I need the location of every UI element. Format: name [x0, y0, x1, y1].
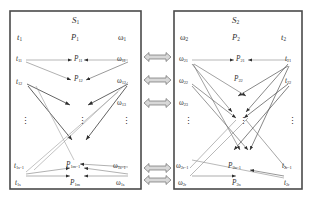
node-omega21: ω21 [179, 56, 188, 63]
panel-connectors [144, 53, 171, 185]
connector-arrow [144, 176, 171, 185]
figure-root: S1 t1 P1 ω1 t11 t12 t1s−1 t1s P11 P12 P1… [0, 0, 311, 210]
node-p2n: P2n [232, 180, 240, 187]
node-p12: P12 [74, 76, 82, 83]
column-head-s2-left: ω2 [180, 33, 188, 42]
node-t22: t22 [285, 78, 291, 85]
node-t1s-minus-1: t1s−1 [14, 163, 24, 170]
ellipsis-s2-right: ⋮ [288, 117, 297, 126]
panel-title-s2: S2 [232, 16, 239, 26]
connector-arrow [144, 76, 171, 85]
column-head-s1-right: ω1 [118, 33, 126, 42]
node-omega2r: ω2r [178, 180, 186, 187]
node-omega1s-minus-1: ω1s−1 [113, 163, 126, 170]
ellipsis-s1-middle: ⋮ [78, 117, 87, 126]
node-p1m-minus-1: P1m−1 [66, 162, 80, 169]
diagram-canvas [0, 0, 311, 210]
ellipsis-s2-middle: ⋮ [239, 117, 248, 126]
node-p11: P11 [74, 56, 82, 63]
ellipsis-s2-left: ⋮ [184, 117, 193, 126]
node-omega13: ω13 [117, 100, 126, 107]
connector-arrow [144, 53, 171, 62]
ellipsis-s1-left: ⋮ [21, 117, 30, 126]
node-omega12: ω12 [117, 78, 126, 85]
node-omega2r-minus-1: ω2r−1 [176, 163, 188, 170]
node-omega1s: ω1s [116, 180, 124, 187]
node-t21: t21 [285, 56, 291, 63]
node-omega22: ω22 [179, 78, 188, 85]
node-omega23: ω23 [179, 100, 188, 107]
column-head-s1-left: t1 [17, 33, 22, 42]
node-t1s: t1s [15, 180, 21, 187]
column-head-s1-middle: P1 [71, 33, 79, 42]
node-t12: t12 [16, 79, 22, 86]
connector-arrow [144, 164, 171, 173]
column-head-s2-middle: P2 [232, 33, 240, 42]
node-t2r-minus-1: t2r−1 [282, 163, 292, 170]
panel-title-s1: S1 [72, 16, 79, 26]
connector-arrow [144, 99, 171, 108]
node-p22: P22 [234, 76, 242, 83]
node-p2n-minus-1: P2n−1 [228, 163, 241, 170]
node-p21: P21 [236, 56, 244, 63]
node-p1m: P1m [70, 180, 80, 187]
node-t2r: t2r [284, 180, 289, 187]
ellipsis-s1-right: ⋮ [122, 117, 131, 126]
node-omega11: ω11 [117, 56, 126, 63]
column-head-s2-right: t2 [281, 33, 286, 42]
node-t11: t11 [16, 56, 22, 63]
